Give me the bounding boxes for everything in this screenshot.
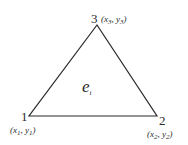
element-label: ei <box>82 77 92 97</box>
node-3-label: 3 <box>91 11 98 26</box>
node-1-label: 1 <box>21 109 28 124</box>
triangle-element-diagram: ei 3 (x3, y3) 1 (x1, y1) 2 (x2, y2) <box>0 0 188 145</box>
triangle-element <box>29 25 157 116</box>
node-1-coordinates: (x1, y1) <box>10 125 36 137</box>
node-2-label: 2 <box>159 113 166 128</box>
node-3-coordinates: (x3, y3) <box>101 14 127 26</box>
node-2-coordinates: (x2, y2) <box>147 129 173 141</box>
